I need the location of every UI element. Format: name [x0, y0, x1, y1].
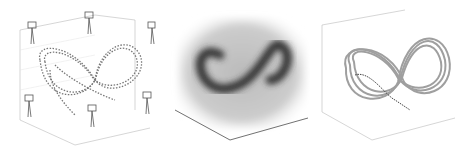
pose-figure-icons: [25, 12, 155, 127]
trajectory-bundle: [345, 38, 450, 98]
axes-box: [322, 10, 455, 140]
figure-eight-trajectories: [40, 45, 142, 115]
panel-c-scatter-plot: [310, 0, 471, 149]
panel-b-density-plot: [160, 0, 310, 149]
panel-a-trajectory-plot: [0, 0, 160, 149]
axes-box: [20, 15, 150, 145]
